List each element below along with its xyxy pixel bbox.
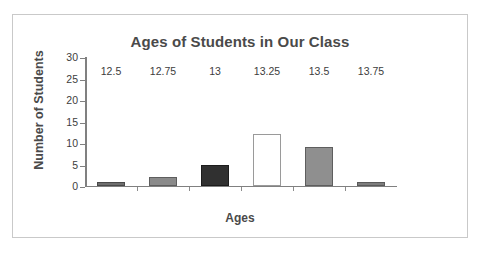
x-tick-mark (241, 187, 242, 191)
bar-13.75 (357, 182, 384, 186)
y-tick-label: 20 (66, 94, 78, 106)
y-tick-label: 0 (72, 180, 78, 192)
y-tick-mark (80, 144, 85, 145)
bar-13.5 (305, 147, 332, 186)
x-axis-title: Ages (13, 211, 467, 225)
y-tick-mark (80, 101, 85, 102)
x-tick-mark (189, 187, 190, 191)
y-tick-mark (80, 123, 85, 124)
bar-12.75 (149, 177, 176, 186)
y-tick-mark (80, 166, 85, 167)
x-tick-label-13: 13 (209, 65, 221, 77)
x-tick-label-13.75: 13.75 (358, 65, 384, 77)
x-tick-mark (137, 187, 138, 191)
bar-13.25 (253, 134, 280, 186)
bar-12.5 (97, 182, 124, 186)
bar-13 (201, 165, 228, 187)
y-tick-mark (80, 80, 85, 81)
chart-figure: Ages of Students in Our Class Number of … (12, 14, 468, 238)
x-tick-label-12.5: 12.5 (101, 65, 121, 77)
y-tick-label: 10 (66, 137, 78, 149)
chart-title: Ages of Students in Our Class (13, 33, 467, 50)
y-axis-line (85, 57, 87, 187)
y-tick-mark (80, 187, 85, 188)
x-tick-mark (345, 187, 346, 191)
x-tick-label-12.75: 12.75 (150, 65, 176, 77)
y-tick-mark (80, 58, 85, 59)
y-tick-label: 25 (66, 73, 78, 85)
y-tick-label: 15 (66, 116, 78, 128)
y-tick-label: 5 (72, 159, 78, 171)
y-tick-label: 30 (66, 51, 78, 63)
y-axis-title: Number of Students (32, 40, 46, 180)
x-tick-mark (293, 187, 294, 191)
plot-area: 051015202530 12.512.751313.2513.513.75 (85, 57, 397, 187)
x-tick-label-13.25: 13.25 (254, 65, 280, 77)
x-tick-label-13.5: 13.5 (309, 65, 329, 77)
